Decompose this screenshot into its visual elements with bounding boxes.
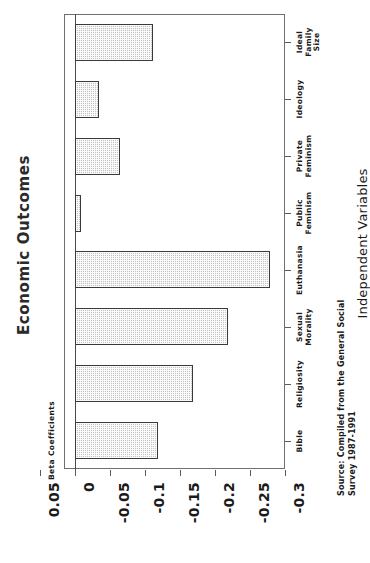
value-axis-label: Beta Coefficients: [47, 386, 56, 496]
category-tick: [285, 270, 291, 271]
bar: [75, 365, 193, 402]
category-tick: [285, 327, 291, 328]
value-tick-label: -0.05: [116, 482, 132, 538]
category-tick: [285, 99, 291, 100]
bar: [75, 24, 153, 61]
bar: [75, 195, 81, 232]
bar: [75, 251, 270, 288]
category-label: Ideal Family Size: [296, 0, 322, 84]
value-tick: [285, 470, 286, 476]
value-tick: [145, 470, 146, 476]
value-tick: [180, 470, 181, 476]
value-tick-label: -0.2: [221, 482, 237, 538]
category-tick: [285, 384, 291, 385]
value-tick-label: -0.1: [151, 482, 167, 538]
category-tick: [285, 441, 291, 442]
value-tick-label: -0.25: [256, 482, 272, 538]
value-tick: [250, 470, 251, 476]
category-tick: [285, 156, 291, 157]
bar: [75, 138, 120, 175]
source-note: Source: Compiled from the General Social…: [336, 296, 358, 496]
value-tick-label: -0.15: [186, 482, 202, 538]
value-tick-label: -0.3: [291, 482, 307, 538]
chart-title: Economic Outcomes: [15, 125, 33, 365]
value-tick: [110, 470, 111, 476]
category-tick: [285, 213, 291, 214]
value-tick: [215, 470, 216, 476]
bar: [75, 422, 158, 459]
category-tick: [285, 42, 291, 43]
value-tick: [40, 470, 41, 476]
bar: [75, 81, 99, 118]
bar: [75, 308, 228, 345]
value-tick: [75, 470, 76, 476]
value-tick-label: 0.05: [46, 482, 62, 538]
value-tick-label: 0: [81, 482, 97, 538]
